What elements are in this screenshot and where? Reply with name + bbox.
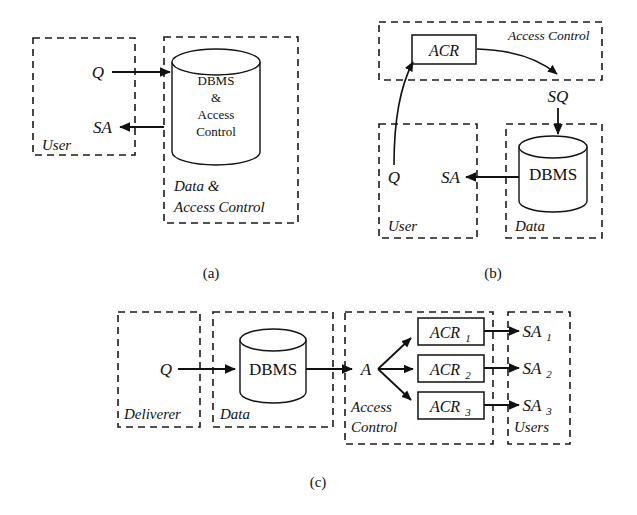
panel-a-caption: (a) <box>203 265 220 282</box>
panel-a-zone-store-label-1: Data & <box>173 178 220 194</box>
panel-b-query-curve <box>394 62 413 165</box>
panel-b-query-label: Q <box>388 168 400 187</box>
panel-a-cylinder-line-2: & <box>211 90 221 105</box>
panel-a: DBMS & Access Control Q SA User Data & A… <box>33 37 298 282</box>
panel-a-zone-store-label-2: Access Control <box>173 199 265 215</box>
panel-b-safe-query-label: SQ <box>548 87 569 106</box>
panel-c-sa-1-subscript: 1 <box>546 331 552 343</box>
panel-c-answer-label: A <box>360 360 372 379</box>
panel-b-zone-user-label: User <box>388 218 417 234</box>
panel-a-query-label: Q <box>92 63 104 82</box>
panel-a-cylinder-line-4: Control <box>196 124 236 139</box>
panel-c-zone-access-control-label-2: Control <box>351 419 397 435</box>
panel-b-caption: (b) <box>484 265 502 282</box>
panel-b-answer-label: SA <box>441 168 461 187</box>
panel-c-dbms-label: DBMS <box>249 360 297 379</box>
panel-c-acr-1-subscript: 1 <box>465 332 471 344</box>
panel-b-zone-access-control-label: Access Control <box>507 28 590 43</box>
panel-c-query-label: Q <box>160 360 172 379</box>
panel-c-zone-data-label: Data <box>219 406 250 422</box>
panel-b-safe-query-curve <box>477 49 557 74</box>
panel-a-zone-user-label: User <box>42 137 71 153</box>
panel-c-zone-users-label: Users <box>514 419 549 435</box>
panel-b-dbms-label: DBMS <box>529 165 577 184</box>
architecture-diagram: DBMS & Access Control Q SA User Data & A… <box>0 0 637 515</box>
panel-a-cylinder-line-1: DBMS <box>198 73 235 88</box>
panel-c: Q DBMS A ACR 1 ACR 2 A <box>118 312 570 491</box>
panel-b-acr-label: ACR <box>428 42 459 59</box>
panel-c-zone-deliverer-label: Deliverer <box>123 406 181 422</box>
panel-c-acr-3-label: ACR <box>429 398 460 415</box>
panel-c-sa-1-label: SA <box>523 322 543 341</box>
panel-c-acr-2-subscript: 2 <box>465 369 471 381</box>
panel-b-zone-data-label: Data <box>514 218 545 234</box>
panel-c-zone-access-control-label-1: Access <box>350 399 392 415</box>
panel-c-sa-3-subscript: 3 <box>545 405 552 417</box>
panel-a-cylinder-line-3: Access <box>198 107 235 122</box>
panel-c-fanout-arrow-1 <box>378 338 411 369</box>
panel-c-caption: (c) <box>310 474 327 491</box>
panel-a-answer-label: SA <box>93 118 113 137</box>
panel-c-fanout-arrow-3 <box>378 369 411 400</box>
panel-c-sa-2-subscript: 2 <box>546 368 552 380</box>
figure-root: DBMS & Access Control Q SA User Data & A… <box>0 0 637 515</box>
panel-b: ACR Access Control SQ DBMS SA Q User Dat… <box>379 22 602 282</box>
panel-c-acr-3-subscript: 3 <box>464 406 471 418</box>
panel-c-sa-2-label: SA <box>523 359 543 378</box>
panel-c-acr-2-label: ACR <box>429 361 460 378</box>
panel-c-acr-1-label: ACR <box>429 324 460 341</box>
panel-c-sa-3-label: SA <box>523 396 543 415</box>
